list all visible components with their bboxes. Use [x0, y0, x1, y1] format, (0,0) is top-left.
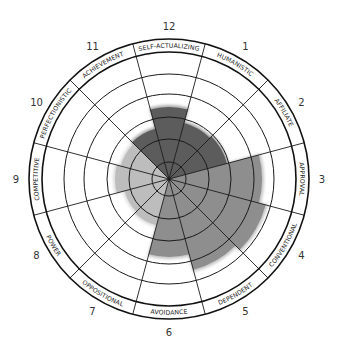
position-number-6: 6 — [166, 327, 172, 338]
position-number-12: 12 — [163, 21, 176, 32]
circumplex-svg: SELF-ACTUALIZINGHUMANISTICAFFILIATEAPPRO… — [0, 0, 337, 359]
position-number-7: 7 — [89, 306, 95, 317]
position-number-4: 4 — [298, 250, 304, 261]
position-number-8: 8 — [33, 250, 39, 261]
segment-label-perfectionistic: PERFECTIONISTIC — [38, 87, 72, 140]
segment-label-approval: APPROVAL — [298, 162, 306, 197]
segment-label-avoidance: AVOIDANCE — [150, 307, 188, 315]
circumplex-chart: SELF-ACTUALIZINGHUMANISTICAFFILIATEAPPRO… — [0, 0, 337, 359]
position-number-9: 9 — [13, 174, 19, 185]
position-number-2: 2 — [298, 97, 304, 108]
position-number-3: 3 — [319, 174, 325, 185]
segment-label-self-actualizing: SELF-ACTUALIZING — [138, 42, 201, 52]
position-number-10: 10 — [30, 97, 43, 108]
position-number-11: 11 — [86, 41, 99, 52]
position-number-5: 5 — [242, 306, 248, 317]
value-wedges — [113, 105, 268, 272]
position-number-1: 1 — [242, 41, 248, 52]
segment-label-competitive: COMPETITIVE — [32, 157, 41, 201]
